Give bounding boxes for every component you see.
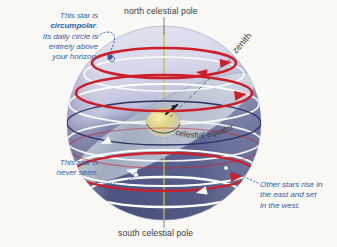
- annotation-circumpolar-emphasis: circumpolar: [50, 21, 95, 30]
- annotation-never-seen: This star is never seen.: [6, 158, 98, 179]
- annotation-never-seen-line2: never seen.: [57, 168, 98, 177]
- never-seen-star-marker: [134, 173, 139, 178]
- south-celestial-pole-label: south celestial pole: [118, 228, 193, 238]
- annotation-circumpolar: This star is circumpolar. Its daily circ…: [6, 11, 98, 62]
- annotation-circumpolar-line4: entirely above: [49, 42, 98, 51]
- annotation-circumpolar-emphasis-trailing: .: [96, 21, 98, 30]
- annotation-other-stars-line3: in the west.: [260, 201, 300, 210]
- annotation-circumpolar-line5: your horizon.: [52, 52, 98, 61]
- annotation-circumpolar-line1: This star is: [60, 11, 98, 20]
- celestial-sphere-figure: zenith celestial equator north celestial…: [0, 0, 337, 247]
- annotation-circumpolar-line3: Its daily circle is: [43, 32, 98, 41]
- rising-setting-star-marker: [224, 166, 229, 171]
- zenith-label: zenith: [230, 31, 254, 56]
- annotation-never-seen-line1: This star is: [60, 158, 98, 167]
- annotation-other-stars-line1: Other stars rise in: [260, 180, 322, 189]
- north-celestial-pole-label: north celestial pole: [124, 6, 198, 16]
- annotation-other-stars: Other stars rise in the east and set in …: [260, 180, 334, 211]
- annotation-other-stars-line2: the east and set: [260, 190, 316, 199]
